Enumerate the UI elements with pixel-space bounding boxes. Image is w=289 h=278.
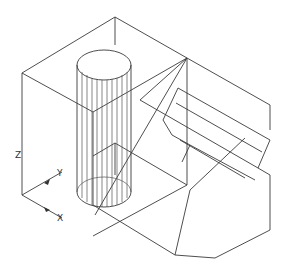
wireframe-model: Z Y X [0, 0, 289, 278]
x-axis-label: X [57, 213, 63, 223]
cylinder [77, 50, 131, 207]
z-axis-label: Z [15, 150, 21, 160]
cad-viewport[interactable]: Z Y X [0, 0, 289, 278]
hex-slot [163, 88, 270, 180]
x-arrow-icon [44, 207, 50, 212]
y-axis-label: Y [56, 168, 63, 178]
right-block [93, 58, 270, 258]
